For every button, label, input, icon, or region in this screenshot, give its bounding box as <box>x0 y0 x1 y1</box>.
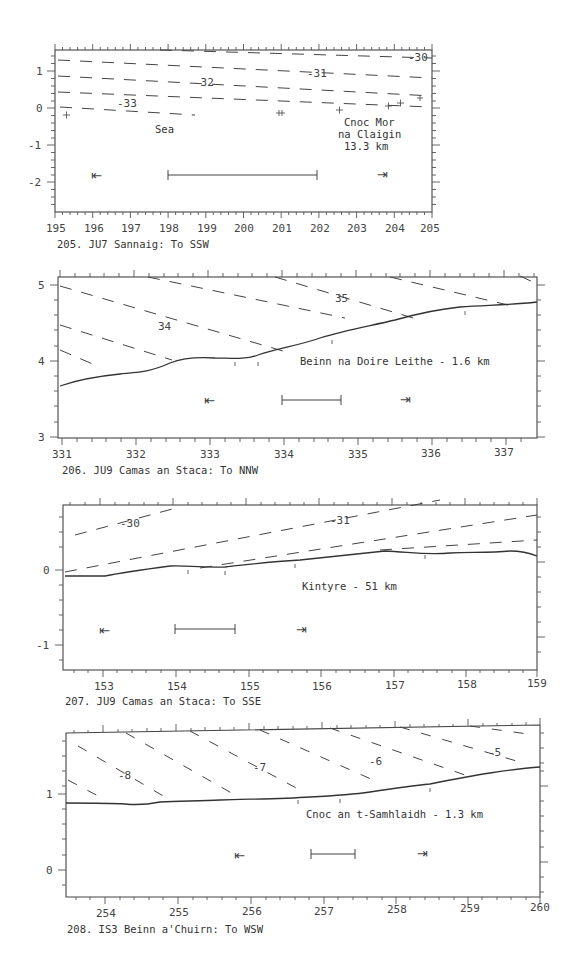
horizon-profile <box>66 767 540 805</box>
place-name-label: Kintyre - 51 km <box>302 580 397 592</box>
x-tick-label: 203 <box>347 222 367 235</box>
place-name-line1: Cnoc Mor <box>344 116 395 128</box>
x-tick-label: 258 <box>387 903 407 916</box>
top-ticks <box>60 270 534 277</box>
bottom-ticks <box>55 212 432 218</box>
x-tick-label: 333 <box>200 448 220 461</box>
contour-lines <box>58 50 432 115</box>
y-tick-label: 1 <box>46 788 53 801</box>
contour-label: -7 <box>253 761 266 774</box>
x-tick-label: 157 <box>385 679 405 692</box>
contour-label: -31 <box>307 67 327 80</box>
place-name-label: Beinn na Doire Leithe - 1.6 km <box>300 355 490 367</box>
y-tick-label: -2 <box>28 176 41 189</box>
panel-205: 1 0 -1 -2 195 196 197 198 199 200 201 20… <box>28 44 440 250</box>
contour-label: -6 <box>369 755 382 768</box>
contour-label: -32 <box>194 76 214 89</box>
x-tick-label: 204 <box>385 222 405 235</box>
right-limit-arrow-icon: ⇥ <box>400 392 411 407</box>
panel-207: 0 -1 153 154 155 156 157 158 159 -30 -31… <box>36 498 547 707</box>
scale-bar <box>282 395 341 405</box>
scale-bar <box>311 849 355 859</box>
x-tick-label: 337 <box>494 446 514 459</box>
left-limit-arrow-icon: ⇤ <box>91 168 102 183</box>
left-limit-arrow-icon: ⇤ <box>99 623 110 638</box>
x-tick-label: 195 <box>46 222 66 235</box>
panel-caption: 207. JU9 Camas an Staca: To SSE <box>65 695 261 707</box>
x-tick-label: 158 <box>457 678 477 691</box>
x-tick-labels: 254 255 256 257 258 259 260 <box>96 901 550 920</box>
bottom-ticks <box>62 438 521 445</box>
x-tick-labels: 331 332 333 334 335 336 337 <box>52 446 514 461</box>
horizon-markers <box>188 555 425 575</box>
x-tick-label: 331 <box>52 448 72 461</box>
y-tick-label: 5 <box>38 279 45 292</box>
x-tick-label: 260 <box>530 901 550 914</box>
x-tick-label: 196 <box>84 222 104 235</box>
bottom-ticks <box>74 670 537 677</box>
y-tick-label: 0 <box>46 864 53 877</box>
x-tick-label: 332 <box>126 448 146 461</box>
x-tick-label: 202 <box>310 222 330 235</box>
contour-lines <box>65 500 537 572</box>
scale-bar <box>168 170 317 180</box>
panorama-profiles: 1 0 -1 -2 195 196 197 198 199 200 201 20… <box>0 0 584 963</box>
top-ticks <box>70 498 537 505</box>
y-tick-label: 4 <box>38 355 45 368</box>
contour-lines <box>60 276 535 365</box>
left-limit-arrow-icon: ⇤ <box>204 393 215 408</box>
right-limit-arrow-icon: ⇥ <box>296 622 307 637</box>
x-tick-label: 334 <box>274 448 294 461</box>
y-tick-label: 1 <box>36 65 43 78</box>
x-tick-label: 159 <box>527 677 547 690</box>
top-ticks <box>55 44 432 50</box>
x-tick-label: 205 <box>420 222 440 235</box>
x-tick-label: 259 <box>460 902 480 915</box>
x-tick-label: 154 <box>167 680 187 693</box>
x-tick-label: 200 <box>234 222 254 235</box>
y-ticks <box>55 517 545 660</box>
x-tick-labels: 195 196 197 198 199 200 201 202 203 204 … <box>46 222 440 235</box>
scale-bar <box>175 624 235 634</box>
x-tick-label: 197 <box>121 222 141 235</box>
x-tick-label: 198 <box>159 222 179 235</box>
contour-label: -31 <box>330 514 350 527</box>
contour-label: -5 <box>488 746 501 759</box>
contour-label: 35 <box>335 292 348 305</box>
panel-caption: 208. IS3 Beinn a'Chuirn: To WSW <box>67 923 264 935</box>
y-tick-label: 3 <box>38 431 45 444</box>
x-tick-label: 255 <box>169 906 189 919</box>
distance-label: 13.3 km <box>344 140 388 152</box>
place-name-line2: na Claigin <box>338 128 401 140</box>
contour-lines <box>68 726 535 797</box>
x-tick-label: 156 <box>312 680 332 693</box>
left-limit-arrow-icon: ⇤ <box>234 848 245 863</box>
contour-label: -33 <box>117 97 137 110</box>
x-tick-label: 256 <box>242 905 262 918</box>
x-tick-labels: 153 154 155 156 157 158 159 <box>94 677 547 693</box>
y-tick-label: 0 <box>36 102 43 115</box>
x-tick-label: 153 <box>94 680 114 693</box>
sea-label: Sea <box>155 123 174 135</box>
y-tick-label: -1 <box>28 139 41 152</box>
x-tick-label: 201 <box>272 222 292 235</box>
right-limit-arrow-icon: ⇥ <box>377 167 388 182</box>
x-tick-label: 336 <box>421 447 441 460</box>
horizon-profile <box>60 302 537 386</box>
contour-label: -30 <box>408 51 428 64</box>
x-tick-label: 335 <box>348 448 368 461</box>
panel-caption: 206. JU9 Camas an Staca: To NNW <box>62 464 259 476</box>
contour-label: -8 <box>118 769 131 782</box>
panel-208: 1 0 254 255 256 257 258 259 260 -8 -7 -6… <box>46 718 550 935</box>
top-ticks <box>74 718 540 733</box>
x-tick-label: 254 <box>96 907 116 920</box>
x-tick-label: 257 <box>314 905 334 918</box>
contour-label: 34 <box>158 320 172 333</box>
y-tick-label: 0 <box>43 564 50 577</box>
contour-label: -30 <box>120 517 140 530</box>
right-limit-arrow-icon: ⇥ <box>417 846 428 861</box>
panel-caption: 205. JU7 Sannaig: To SSW <box>57 238 209 250</box>
y-tick-label: -1 <box>36 639 49 652</box>
horizon-profile <box>65 551 537 576</box>
x-tick-label: 199 <box>197 222 217 235</box>
